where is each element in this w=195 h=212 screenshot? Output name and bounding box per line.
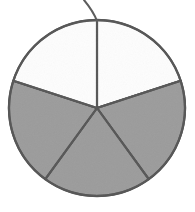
fraction-circle-figure: Fraction circle Circle divided into five…	[0, 0, 195, 212]
pie-chart-svg	[0, 0, 195, 212]
tail-mark-icon	[84, 0, 97, 21]
